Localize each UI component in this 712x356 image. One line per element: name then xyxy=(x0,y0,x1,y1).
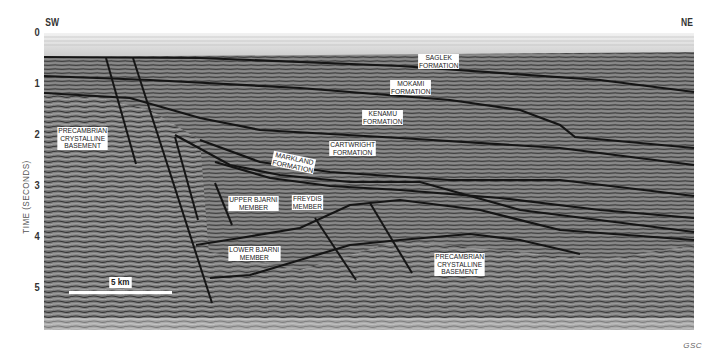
label-mokami-formation: MOKAMIFORMATION xyxy=(390,80,431,95)
direction-ne: NE xyxy=(681,17,693,28)
time-axis-title: TIME (SECONDS) xyxy=(21,152,31,242)
seismic-figure: SW NE 0 1 2 3 4 5 TIME (SECONDS) SAGLEKF… xyxy=(0,0,712,356)
scale-bar-label: 5 km xyxy=(109,277,131,288)
time-tick-0: 0 xyxy=(32,26,42,38)
scale-bar xyxy=(69,291,172,294)
label-precambrian-basement-east: PRECAMBRIANCRYSTALLINEBASEMENT xyxy=(434,253,485,276)
label-precambrian-basement-west: PRECAMBRIANCRYSTALLINEBASEMENT xyxy=(57,127,108,150)
direction-sw: SW xyxy=(45,17,59,28)
time-tick-5: 5 xyxy=(32,281,42,293)
credit-gsc: GSC xyxy=(683,341,702,350)
label-saglek-formation: SAGLEKFORMATION xyxy=(418,54,459,69)
time-tick-4: 4 xyxy=(32,230,42,242)
label-upper-bjarni-member: UPPER BJARNIMEMBER xyxy=(228,196,278,211)
time-tick-1: 1 xyxy=(32,77,42,89)
label-cartwright-formation: CARTWRIGHTFORMATION xyxy=(329,141,376,156)
label-kenamu-formation: KENAMUFORMATION xyxy=(362,110,403,125)
label-lower-bjarni-member: LOWER BJARNIMEMBER xyxy=(228,246,280,261)
label-freydis-member: FREYDISMEMBER xyxy=(292,195,323,210)
seismic-section xyxy=(0,0,712,356)
time-tick-2: 2 xyxy=(32,128,42,140)
time-tick-3: 3 xyxy=(32,179,42,191)
